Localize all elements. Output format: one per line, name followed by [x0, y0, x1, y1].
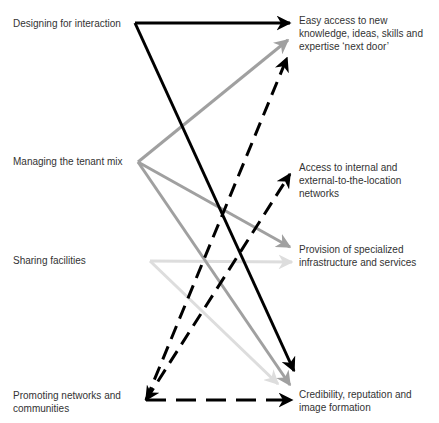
node-sharing-facilities: Sharing facilities [13, 254, 86, 267]
edge-managing-easy-access [138, 40, 288, 162]
edge-designing-credibility [135, 23, 294, 371]
edge-sharing-provision [150, 261, 292, 262]
edge-sharing-credibility [150, 261, 278, 384]
node-easy-access: Easy access to new knowledge, ideas, ski… [299, 14, 423, 53]
node-access-networks: Access to internal and external-to-the-l… [299, 161, 401, 200]
node-credibility: Credibility, reputation and image format… [299, 388, 412, 414]
diagram-canvas [0, 0, 439, 423]
node-managing-tenant-mix: Managing the tenant mix [13, 155, 123, 168]
node-provision: Provision of specialized infrastructure … [299, 243, 416, 269]
node-designing-for-interaction: Designing for interaction [13, 17, 121, 30]
node-promoting-networks: Promoting networks and communities [13, 389, 121, 415]
